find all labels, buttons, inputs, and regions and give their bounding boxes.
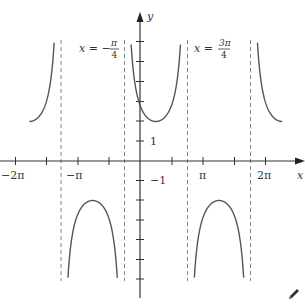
asymptote-left-num: π	[110, 38, 118, 48]
tick-label-neg2pi: −2π	[1, 169, 24, 182]
tick-label-pi: π	[199, 169, 206, 182]
curve-branch-1	[68, 201, 117, 278]
x-axis-label: x	[297, 169, 304, 182]
asymptote-label-left: x = − π 4	[79, 38, 119, 60]
tick-label-negpi: −π	[66, 169, 82, 182]
asymptote-right-lhs: x =	[194, 42, 213, 55]
pencil-icon[interactable]	[286, 286, 302, 302]
axes	[0, 20, 298, 298]
curve-2sec-x-minus-pi4	[29, 43, 282, 278]
chart: −2π −π π 2π 1 −1 x y x = − π 4 x = 3π 4	[0, 0, 305, 307]
asymptote-left-lhs: x = −	[79, 42, 111, 55]
y-axis-arrow-icon	[137, 12, 144, 22]
y-axis-label: y	[146, 10, 154, 23]
curve-branch-2	[131, 44, 180, 121]
asymptote-label-right: x = 3π 4	[194, 38, 232, 60]
tick-label-neg1: −1	[150, 174, 166, 187]
tick-label-2pi: 2π	[257, 169, 271, 182]
curve-branch-3	[194, 201, 243, 278]
curve-branch-0	[29, 43, 54, 122]
asymptote-right-num: 3π	[219, 38, 232, 48]
x-axis-arrow-icon	[295, 158, 305, 165]
tick-label-1: 1	[150, 135, 157, 148]
asymptote-left-den: 4	[112, 50, 118, 60]
curve-branch-4	[257, 43, 282, 122]
asymptote-right-den: 4	[221, 50, 227, 60]
